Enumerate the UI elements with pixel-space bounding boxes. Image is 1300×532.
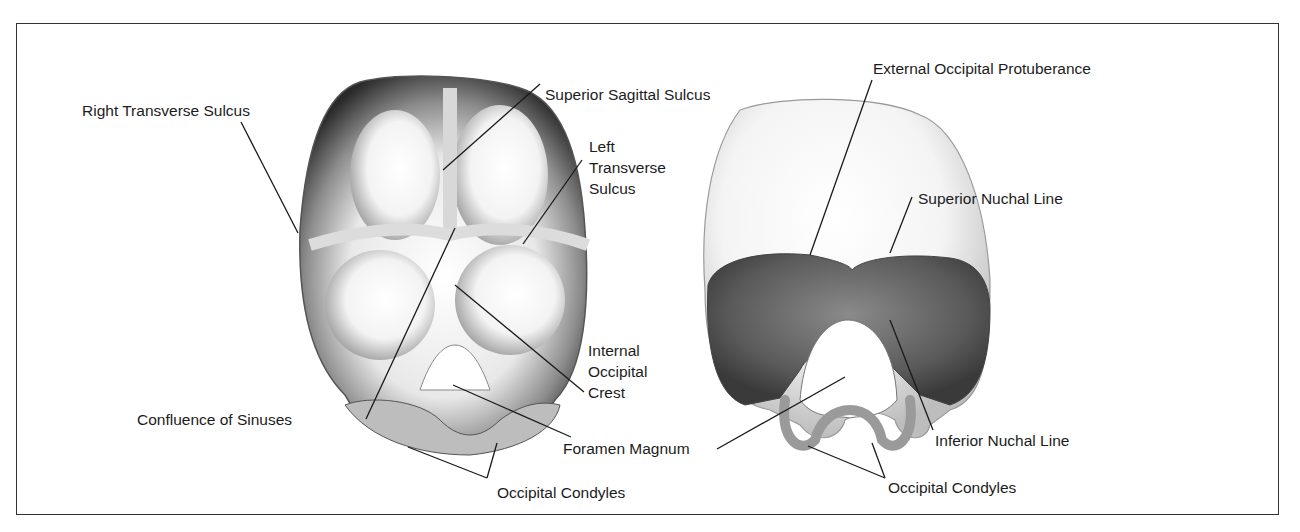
label-internal-occipital-crest: Internal Occipital Crest bbox=[588, 340, 647, 403]
label-occipital-condyles-right: Occipital Condyles bbox=[888, 477, 1016, 498]
label-confluence-of-sinuses: Confluence of Sinuses bbox=[137, 409, 292, 430]
label-left-transverse-sulcus: Left Transverse Sulcus bbox=[589, 136, 666, 199]
label-superior-nuchal-line: Superior Nuchal Line bbox=[918, 188, 1063, 209]
label-foramen-magnum: Foramen Magnum bbox=[563, 438, 690, 459]
label-superior-sagittal-sulcus: Superior Sagittal Sulcus bbox=[545, 84, 710, 105]
label-right-transverse-sulcus: Right Transverse Sulcus bbox=[82, 100, 250, 121]
label-external-occipital-protuberance: External Occipital Protuberance bbox=[873, 58, 1091, 79]
label-inferior-nuchal-line: Inferior Nuchal Line bbox=[935, 430, 1069, 451]
internal-view-bone bbox=[300, 76, 588, 455]
label-occipital-condyles-left: Occipital Condyles bbox=[497, 482, 625, 503]
